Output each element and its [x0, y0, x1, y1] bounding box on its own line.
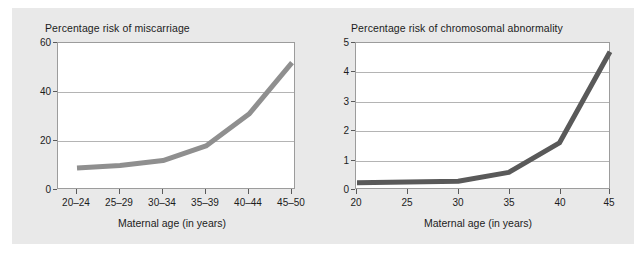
chart-chromosomal-abnormality: Percentage risk of chromosomal abnormali…	[323, 8, 634, 244]
plot-area-miscarriage	[57, 42, 295, 189]
ytick-label-left-20: 20	[24, 135, 51, 146]
xtick-mark-left-1	[119, 189, 120, 194]
xtick-label-left-3: 35–39	[191, 197, 219, 208]
xtick-label-right-35: 35	[503, 197, 514, 208]
xtick-mark-right-35	[509, 189, 510, 194]
xtick-mark-right-30	[458, 189, 459, 194]
xaxis-label-chromosomal-abnormality: Maternal age (in years)	[333, 217, 623, 229]
xtick-mark-right-20	[356, 189, 357, 194]
ytick-label-right-0: 0	[331, 184, 349, 195]
ytick-label-left-0: 0	[24, 184, 51, 195]
xtick-label-left-0: 20–24	[62, 197, 90, 208]
ytick-label-right-2: 2	[331, 125, 349, 136]
plot-area-chromosomal-abnormality	[355, 42, 610, 189]
xtick-mark-left-0	[76, 189, 77, 194]
xtick-label-left-4: 40–44	[234, 197, 262, 208]
xtick-label-right-45: 45	[603, 197, 614, 208]
chart-title-chromosomal-abnormality: Percentage risk of chromosomal abnormali…	[351, 22, 563, 34]
xtick-label-right-40: 40	[554, 197, 565, 208]
xtick-mark-right-25	[407, 189, 408, 194]
xtick-mark-left-2	[162, 189, 163, 194]
figure-panel: Percentage risk of miscarriage 0 20 40 6…	[12, 8, 634, 244]
xtick-mark-left-4	[248, 189, 249, 194]
ytick-label-right-3: 3	[331, 95, 349, 106]
ytick-mark-right-0	[351, 189, 355, 190]
xtick-label-right-20: 20	[350, 197, 361, 208]
xtick-mark-left-5	[291, 189, 292, 194]
ytick-mark-left-0	[53, 189, 57, 190]
xaxis-label-miscarriage: Maternal age (in years)	[32, 217, 312, 229]
ytick-label-right-1: 1	[331, 154, 349, 165]
xtick-label-left-2: 30–34	[148, 197, 176, 208]
chart-miscarriage: Percentage risk of miscarriage 0 20 40 6…	[12, 8, 323, 244]
xtick-label-left-1: 25–29	[105, 197, 133, 208]
ytick-label-left-40: 40	[24, 86, 51, 97]
xtick-label-right-30: 30	[452, 197, 463, 208]
chart-title-miscarriage: Percentage risk of miscarriage	[45, 22, 190, 34]
ytick-label-left-60: 60	[24, 37, 51, 48]
xtick-label-left-5: 45–50	[277, 197, 305, 208]
series-line-chromosomal-abnormality	[356, 43, 611, 190]
ytick-label-right-4: 4	[331, 66, 349, 77]
xtick-mark-left-3	[205, 189, 206, 194]
xtick-mark-right-45	[609, 189, 610, 194]
xtick-mark-right-40	[560, 189, 561, 194]
xtick-label-right-25: 25	[401, 197, 412, 208]
series-line-miscarriage	[58, 43, 296, 190]
ytick-label-right-5: 5	[331, 37, 349, 48]
